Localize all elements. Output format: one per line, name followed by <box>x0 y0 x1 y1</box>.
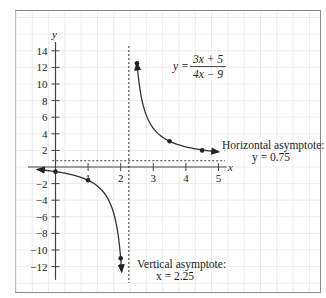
equation-lhs: y = <box>172 60 189 73</box>
data-point <box>53 169 58 174</box>
y-tick-label: 8 <box>42 95 48 107</box>
x-tick-label: 4 <box>183 172 189 184</box>
horizontal-asymptote-value: y = 0.75 <box>252 151 290 164</box>
x-tick-label: 5 <box>216 172 222 184</box>
data-point <box>167 139 172 144</box>
x-tick-label: 2 <box>118 172 124 184</box>
data-point <box>200 148 205 153</box>
y-tick-label: 4 <box>42 128 48 140</box>
x-tick-label: 3 <box>151 172 157 184</box>
data-point <box>86 178 91 183</box>
y-tick-label: 10 <box>37 78 49 90</box>
equation-denominator: 4x − 9 <box>193 68 223 80</box>
chart: 123451412108642−2−4−6−8−10−12 y x y = 3x… <box>0 0 326 298</box>
y-axis-label: y <box>51 28 57 40</box>
y-tick-label: −2 <box>36 178 48 190</box>
y-tick-label: −12 <box>30 261 47 273</box>
y-tick-label: −6 <box>36 211 48 223</box>
equation-numerator: 3x + 5 <box>192 53 223 65</box>
y-tick-label: −4 <box>36 194 48 206</box>
data-point <box>135 61 140 66</box>
y-tick-label: −8 <box>36 227 48 239</box>
vertical-asymptote-value: x = 2.25 <box>156 270 194 282</box>
y-tick-label: 14 <box>37 45 49 57</box>
y-tick-label: 2 <box>42 144 48 156</box>
x-axis-label: x <box>227 161 233 173</box>
y-tick-label: −10 <box>30 244 48 256</box>
y-tick-label: 12 <box>37 61 48 73</box>
data-point <box>118 256 123 261</box>
y-tick-label: 6 <box>42 111 48 123</box>
